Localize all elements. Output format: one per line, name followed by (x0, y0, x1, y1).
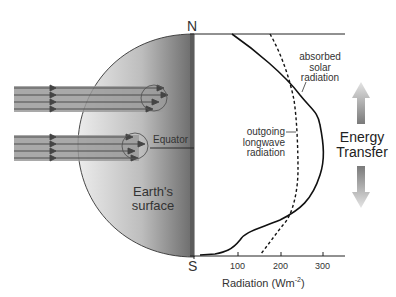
south-label: S (188, 259, 197, 274)
energy-transfer-label: Energy Transfer (331, 130, 393, 159)
sunbeam-lower (14, 133, 148, 161)
energy-up-arrow (352, 82, 370, 124)
outgoing-longwave-label: outgoing longwave radiation (233, 127, 285, 159)
x-tick-100: 100 (230, 262, 245, 271)
x-axis-label: Radiation (Wm-2) (222, 276, 305, 289)
absorbed-leader (302, 82, 306, 92)
x-tick-200: 200 (273, 262, 288, 271)
north-label: N (187, 19, 197, 34)
sunbeam-upper (14, 85, 168, 112)
earth-surface-label: Earth's surface (118, 185, 188, 212)
equator-label: Equator (153, 135, 188, 146)
energy-down-arrow (352, 166, 370, 208)
x-tick-300: 300 (315, 262, 330, 271)
absorbed-solar-label: absorbed solar radiation (295, 52, 345, 84)
